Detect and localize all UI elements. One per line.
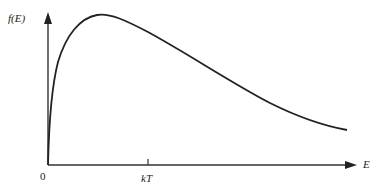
distribution-curve	[48, 15, 347, 165]
x-axis-label: E	[363, 158, 370, 170]
x-axis-arrow-icon	[345, 161, 357, 169]
y-axis-arrow-icon	[44, 12, 52, 24]
x-axis	[48, 161, 357, 169]
origin-label: 0	[40, 170, 46, 182]
y-axis-label: f(E)	[8, 12, 25, 24]
distribution-chart	[0, 0, 385, 192]
kt-tick-label: kT	[141, 172, 152, 184]
